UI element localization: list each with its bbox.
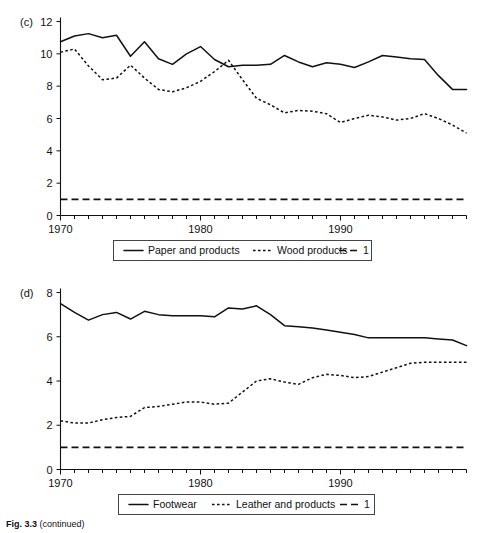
legend-label: 1: [363, 244, 369, 256]
x-tick-label: 1970: [48, 477, 72, 489]
legend-label: Leather and products: [236, 498, 335, 510]
y-tick-label: 4: [46, 145, 52, 157]
y-tick-label: 0: [46, 210, 52, 222]
caption-label: Fig. 3.3: [6, 519, 37, 529]
chart-panel-d: (d)02468197019801990FootwearLeather and …: [0, 268, 486, 533]
y-tick-label: 8: [46, 287, 52, 299]
x-tick-label: 1980: [188, 477, 212, 489]
y-tick-label: 2: [46, 419, 52, 431]
y-tick-label: 2: [46, 177, 52, 189]
legend-label: Footwear: [153, 498, 197, 510]
y-tick-label: 4: [46, 375, 52, 387]
series-line: [61, 304, 467, 346]
figure-3-3: (c)024681012197019801990Paper and produc…: [0, 0, 486, 533]
chart-panel-c: (c)024681012197019801990Paper and produc…: [0, 0, 486, 268]
y-tick-label: 12: [40, 16, 52, 28]
caption-text: (continued): [40, 519, 85, 529]
x-tick-label: 1980: [188, 223, 212, 235]
y-tick-label: 6: [46, 113, 52, 125]
y-tick-label: 6: [46, 331, 52, 343]
chart-d-svg: (d)02468197019801990FootwearLeather and …: [0, 268, 486, 533]
y-tick-label: 10: [40, 48, 52, 60]
legend-label: Paper and products: [148, 244, 240, 256]
legend-label: 1: [364, 498, 370, 510]
panel-tag: (d): [20, 287, 33, 299]
x-tick-label: 1970: [48, 223, 72, 235]
series-line: [61, 49, 467, 133]
series-line: [61, 34, 467, 90]
figure-caption: Fig. 3.3 (continued): [6, 519, 306, 533]
x-tick-label: 1990: [328, 223, 352, 235]
legend-label: Wood products: [277, 244, 347, 256]
chart-c-svg: (c)024681012197019801990Paper and produc…: [0, 0, 486, 268]
x-tick-label: 1990: [328, 477, 352, 489]
panel-tag: (c): [20, 16, 33, 28]
y-tick-label: 0: [46, 464, 52, 476]
series-line: [61, 362, 467, 423]
y-tick-label: 8: [46, 80, 52, 92]
